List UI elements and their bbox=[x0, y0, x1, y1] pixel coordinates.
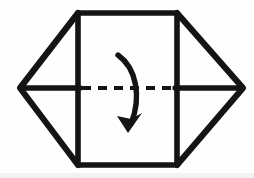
diagram-canvas bbox=[0, 0, 254, 178]
origami-fold-diagram bbox=[0, 0, 254, 178]
